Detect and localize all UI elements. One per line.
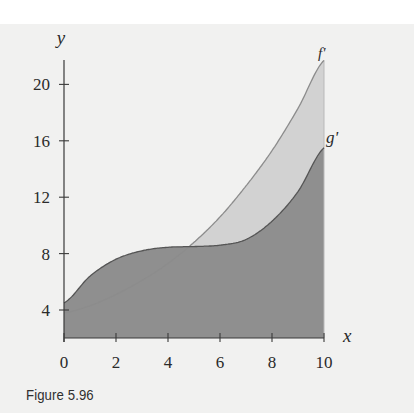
x-tick-label: 4 xyxy=(164,353,173,372)
x-tick-label: 10 xyxy=(316,353,333,372)
y-tick-label: 4 xyxy=(42,301,51,320)
figure-caption: Figure 5.96 xyxy=(26,386,94,403)
y-tick-label: 20 xyxy=(33,75,50,94)
curve-label-g: g' xyxy=(326,128,339,147)
x-tick-label: 6 xyxy=(216,353,225,372)
y-tick-label: 16 xyxy=(33,132,50,151)
x-tick-label: 8 xyxy=(268,353,277,372)
chart: 024681048121620xyf'g' xyxy=(0,0,414,413)
curve-label-f: f' xyxy=(318,45,326,61)
y-tick-label: 8 xyxy=(42,245,51,264)
figure: 024681048121620xyf'g' Figure 5.96 xyxy=(0,0,414,413)
x-tick-label: 2 xyxy=(112,353,121,372)
y-tick-label: 12 xyxy=(33,188,50,207)
x-axis-label: x xyxy=(342,325,352,346)
y-axis-label: y xyxy=(55,27,66,48)
x-tick-label: 0 xyxy=(60,353,69,372)
